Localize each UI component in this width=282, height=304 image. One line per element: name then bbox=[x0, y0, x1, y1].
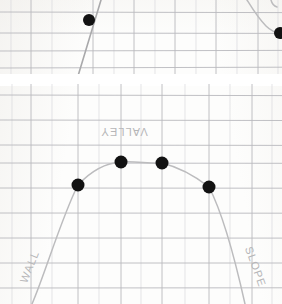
annotation-label-slope: SLOPE bbox=[243, 245, 269, 289]
scanned-chart-page: VALLEY WALL SLOPE bbox=[0, 0, 282, 304]
top-curve-group bbox=[78, 0, 282, 76]
main-grid-vertical bbox=[12, 84, 272, 304]
annotation-slope: SLOPE bbox=[243, 245, 269, 289]
annotation-wall: WALL bbox=[17, 249, 41, 285]
data-point bbox=[83, 14, 95, 26]
valley-profile-panel: VALLEY WALL SLOPE bbox=[0, 84, 282, 304]
top-chart-panel bbox=[0, 0, 282, 76]
data-point bbox=[72, 179, 85, 192]
top-datapoints bbox=[83, 14, 282, 39]
data-point bbox=[203, 181, 216, 194]
annotation-label-valley: VALLEY bbox=[100, 126, 147, 138]
top-grid-vertical bbox=[11, 0, 278, 76]
annotation-label-wall: WALL bbox=[17, 249, 41, 285]
data-point bbox=[274, 27, 282, 39]
annotation-valley: VALLEY bbox=[100, 126, 147, 138]
data-point bbox=[115, 156, 128, 169]
top-grid-horizontal bbox=[0, 12, 282, 68]
data-point bbox=[156, 157, 169, 170]
